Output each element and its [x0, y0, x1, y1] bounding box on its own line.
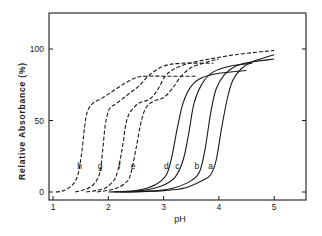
y-tick-label: 0 [39, 187, 44, 197]
x-tick-label: 4 [217, 202, 222, 212]
curve-labels: abcdefgh [77, 161, 213, 171]
x-tick-label: 2 [106, 202, 111, 212]
axis-ticks: 12345050100 [30, 44, 306, 212]
curve-label-e: e [131, 161, 136, 171]
curve-label-c: c [175, 161, 180, 171]
x-tick-label: 3 [161, 202, 166, 212]
x-tick-label: 5 [272, 202, 277, 212]
absorbance-ph-chart: 12345050100 abcdefgh pH Relative Absorba… [0, 0, 322, 236]
curve-f [86, 50, 274, 192]
y-axis-label: Relative Absorbance (%) [17, 62, 27, 180]
curve-label-d: d [164, 161, 169, 171]
plot-frame [49, 13, 306, 200]
y-tick-label: 50 [35, 116, 45, 126]
curve-g [75, 63, 213, 192]
curve-label-b: b [194, 161, 199, 171]
y-tick-label: 100 [30, 44, 44, 54]
curve-label-g: g [98, 161, 103, 171]
curve-label-h: h [77, 161, 82, 171]
x-tick-label: 1 [51, 202, 56, 212]
curve-label-f: f [118, 161, 121, 171]
curve-label-a: a [208, 161, 213, 171]
x-axis-label: pH [174, 214, 186, 224]
curve-b [119, 59, 274, 192]
plot-border [49, 13, 306, 200]
